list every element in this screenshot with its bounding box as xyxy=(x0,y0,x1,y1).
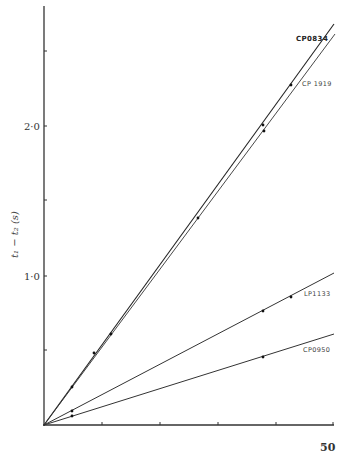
label-lp1133: LP1133 xyxy=(304,290,330,298)
x-tick-label-50: 50 xyxy=(320,441,336,454)
line-cp1919 xyxy=(44,34,335,425)
data-points xyxy=(71,84,293,418)
label-cp0950: CP0950 xyxy=(303,346,330,354)
y-tick-label-2: 2·0 xyxy=(24,121,40,132)
y-axis-label: t₁ − t₂ (s) xyxy=(9,211,20,258)
label-cp1919: CP 1919 xyxy=(302,80,332,88)
label-cp0834: CP0834 xyxy=(296,35,328,43)
line-cp0950 xyxy=(44,334,334,425)
chart: 2·0 1·0 50 t₁ − t₂ (s) CP0834 CP 1919 LP… xyxy=(0,0,348,457)
y-tick-label-1: 1·0 xyxy=(24,271,40,282)
